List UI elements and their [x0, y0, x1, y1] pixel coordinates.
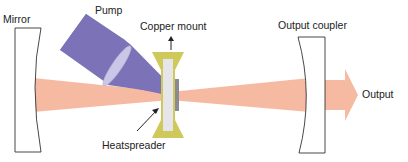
label-mirror: Mirror — [3, 13, 31, 25]
label-heatspreader: Heatspreader — [102, 139, 166, 151]
copper-mount-arrow-icon — [168, 36, 174, 50]
output-arrow — [325, 69, 358, 121]
label-output-coupler: Output coupler — [278, 19, 347, 31]
label-output: Output — [362, 88, 394, 100]
gain-chip — [175, 79, 179, 111]
heatspreader-arrow-icon — [137, 108, 159, 131]
label-pump: Pump — [95, 4, 123, 16]
heatspreader — [163, 59, 173, 131]
label-copper-mount: Copper mount — [140, 20, 207, 32]
laser-cavity-diagram: Mirror Pump Copper mount Output coupler … — [0, 0, 408, 162]
